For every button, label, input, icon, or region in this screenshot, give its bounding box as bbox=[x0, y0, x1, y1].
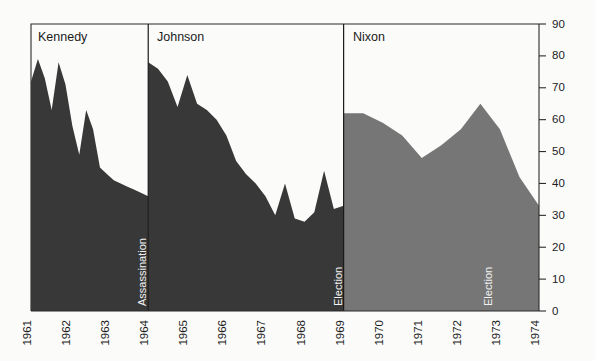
x-tick-label-1963: 1963 bbox=[99, 320, 111, 346]
y-tick-label: 50 bbox=[552, 145, 565, 157]
panel-title-johnson: Johnson bbox=[157, 30, 204, 44]
y-tick-label: 80 bbox=[552, 49, 565, 61]
event-label-election-1972: Election bbox=[482, 267, 494, 306]
x-tick-label-1970: 1970 bbox=[373, 320, 385, 346]
x-tick-label-1972: 1972 bbox=[451, 320, 463, 346]
x-tick-label-1971: 1971 bbox=[412, 320, 424, 346]
x-tick-label-1966: 1966 bbox=[216, 320, 228, 346]
panel-title-kennedy: Kennedy bbox=[38, 30, 88, 44]
x-tick-label-1973: 1973 bbox=[490, 320, 502, 346]
presidential-approval-area-chart: 0102030405060708090 19611962196319641965… bbox=[0, 0, 595, 361]
chart-canvas: 0102030405060708090 19611962196319641965… bbox=[0, 0, 595, 361]
y-tick-label: 60 bbox=[552, 113, 565, 125]
x-tick-label-1964: 1964 bbox=[138, 319, 150, 345]
y-tick-label: 40 bbox=[552, 177, 565, 189]
x-tick-label-1969: 1969 bbox=[334, 320, 346, 346]
y-tick-label: 20 bbox=[552, 241, 565, 253]
event-label-assassination: Assassination bbox=[136, 238, 148, 306]
x-tick-label-1968: 1968 bbox=[295, 320, 307, 346]
panel-title-nixon: Nixon bbox=[353, 30, 385, 44]
x-tick-label-1961: 1961 bbox=[21, 320, 33, 346]
event-label-election-1968: Election bbox=[332, 267, 344, 306]
y-tick-label: 0 bbox=[552, 305, 558, 317]
y-tick-label: 30 bbox=[552, 209, 565, 221]
x-tick-label-1974: 1974 bbox=[529, 319, 541, 345]
x-tick-label-1965: 1965 bbox=[177, 320, 189, 346]
x-tick-label-1962: 1962 bbox=[60, 320, 72, 346]
y-tick-label: 90 bbox=[552, 18, 565, 30]
y-tick-label: 10 bbox=[552, 273, 565, 285]
x-tick-label-1967: 1967 bbox=[255, 320, 267, 346]
y-tick-label: 70 bbox=[552, 81, 565, 93]
